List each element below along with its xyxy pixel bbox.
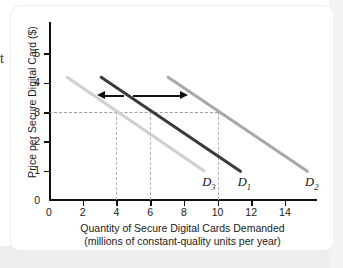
x-tick-label-2: 2	[72, 207, 94, 218]
curve-label-D1: D1	[238, 175, 251, 192]
y-tick-3	[44, 112, 50, 114]
x-axis-title-main: Quantity of Secure Digital Cards Demande…	[80, 222, 284, 234]
curve-label-D2: D2	[305, 175, 318, 192]
arrow-shaft	[103, 95, 124, 97]
demand-curve-D1	[99, 76, 242, 174]
y-tick-5	[44, 53, 50, 55]
curve-label-D3: D3	[202, 175, 215, 192]
curve-label-letter: D	[238, 175, 247, 189]
curve-label-subscript: 3	[211, 182, 215, 192]
demand-curve-chart: 01234502468101214 D3D1D2 Price per Secur…	[0, 0, 343, 268]
curve-label-letter: D	[202, 175, 211, 189]
y-tick-1	[44, 171, 50, 173]
x-tick-label-12: 12	[240, 207, 262, 218]
price-3-dashed	[49, 112, 218, 113]
curve-label-subscript: 2	[314, 182, 318, 192]
y-tick-4	[44, 83, 50, 85]
x-tick-label-6: 6	[139, 207, 161, 218]
x-tick-label-14: 14	[274, 207, 296, 218]
figure-page: t 01234502468101214 D3D1D2 Price per Sec…	[0, 0, 343, 268]
x-tick-label-8: 8	[173, 207, 195, 218]
x-tick-label-4: 4	[105, 207, 127, 218]
curve-label-letter: D	[305, 175, 314, 189]
y-tick-label-0: 0	[26, 195, 40, 206]
quantity-6-dashed	[150, 112, 151, 200]
x-tick-label-10: 10	[207, 207, 229, 218]
x-axis-title: Quantity of Secure Digital Cards Demande…	[40, 222, 325, 248]
y-axis-title: Price per Secure Digital Card ($)	[26, 17, 38, 187]
x-axis-title-sub: (millions of constant-quality units per …	[40, 235, 325, 248]
curve-label-subscript: 1	[247, 182, 251, 192]
quantity-4-dashed	[116, 112, 117, 200]
y-tick-2	[44, 141, 50, 143]
arrow-head-icon	[97, 91, 105, 99]
arrow-head-icon	[180, 91, 188, 99]
x-tick-label-0: 0	[38, 207, 60, 218]
arrow-shaft	[133, 95, 182, 97]
